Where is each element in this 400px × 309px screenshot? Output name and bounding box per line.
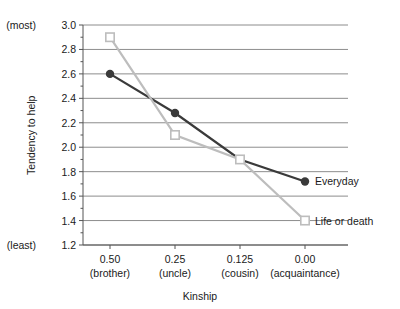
- y-tick-label: 1.4: [40, 216, 76, 227]
- axis-ticks: [79, 25, 305, 249]
- y-tick-label: 2.4: [40, 93, 76, 104]
- y-axis-most-label: (most): [0, 20, 36, 31]
- series-label-0: Everyday: [315, 176, 359, 187]
- data-point-marker: [301, 177, 309, 185]
- y-tick-label: 2.8: [40, 44, 76, 55]
- series-line-0: [110, 74, 305, 182]
- y-axis-title: Tendency to help: [26, 96, 37, 175]
- x-tick-label: 0.00: [255, 254, 355, 265]
- y-tick-label: 3.0: [40, 20, 76, 31]
- data-point-marker: [236, 155, 244, 163]
- x-axis-title: Kinship: [0, 291, 400, 302]
- data-point-marker: [171, 131, 179, 139]
- x-tick-sublabel: (acquaintance): [255, 268, 355, 279]
- chart-container: 3.02.82.62.42.22.01.81.61.41.2 0.50(brot…: [0, 0, 400, 309]
- y-tick-label: 1.2: [40, 240, 76, 251]
- series-line-1: [110, 37, 305, 220]
- series-lines: [110, 37, 305, 220]
- y-axis-least-label: (least): [0, 240, 36, 251]
- y-tick-label: 2.2: [40, 118, 76, 129]
- y-tick-label: 2.0: [40, 142, 76, 153]
- data-point-marker: [301, 216, 309, 224]
- y-tick-label: 2.6: [40, 69, 76, 80]
- y-tick-label: 1.8: [40, 167, 76, 178]
- data-point-marker: [106, 33, 114, 41]
- y-tick-label: 1.6: [40, 191, 76, 202]
- data-point-marker: [171, 109, 179, 117]
- data-point-marker: [106, 70, 114, 78]
- series-label-1: Life or death: [315, 216, 373, 227]
